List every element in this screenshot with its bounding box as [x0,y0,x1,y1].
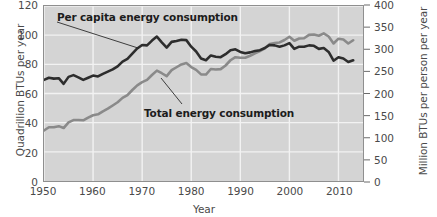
series-label-per-capita: Per capita energy consumption [57,11,238,23]
energy-consumption-chart: Quadrillion BTUs per year Million BTUs p… [0,0,437,217]
series-line-per-capita [44,37,353,84]
plot-area [43,5,364,182]
x-axis-tick-label: 1960 [70,186,114,197]
x-axis-tick-label: 1970 [120,186,164,197]
series-label-total: Total energy consumption [144,107,294,119]
x-axis-tick-label: 1980 [169,186,213,197]
plot-canvas [44,6,363,181]
x-axis-tick-label: 1950 [21,186,65,197]
x-axis-tick-label: 2000 [268,186,312,197]
x-axis-tick-label: 1990 [219,186,263,197]
x-axis-tick-label: 2010 [317,186,361,197]
